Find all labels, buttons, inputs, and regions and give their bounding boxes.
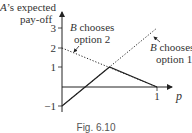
y-tick-label-1: 1 xyxy=(51,61,57,73)
x-axis-label: p xyxy=(175,89,182,103)
y-axis-label-line2: pay-off xyxy=(20,13,53,25)
annotation-option2-line2: option 2 xyxy=(74,33,110,45)
y-tick-label-minus1: −1 xyxy=(44,100,56,112)
y-tick-label-2: 2 xyxy=(51,42,57,54)
annotation-option1-line2: option 1 xyxy=(156,53,192,65)
x-tick-label-1: 1 xyxy=(154,90,160,102)
annotation-option1-line1: B chooses xyxy=(150,41,192,53)
y-axis-label-line1: A’s expected xyxy=(0,1,56,13)
annotation-option2-arrow xyxy=(74,46,79,52)
annotation-option2-line1: B chooses xyxy=(70,21,114,33)
figure-caption: Fig. 6.10 xyxy=(77,122,116,133)
payoff-chart: 3 2 1 −1 1 p A’s expected pay-off B choo… xyxy=(0,0,192,133)
